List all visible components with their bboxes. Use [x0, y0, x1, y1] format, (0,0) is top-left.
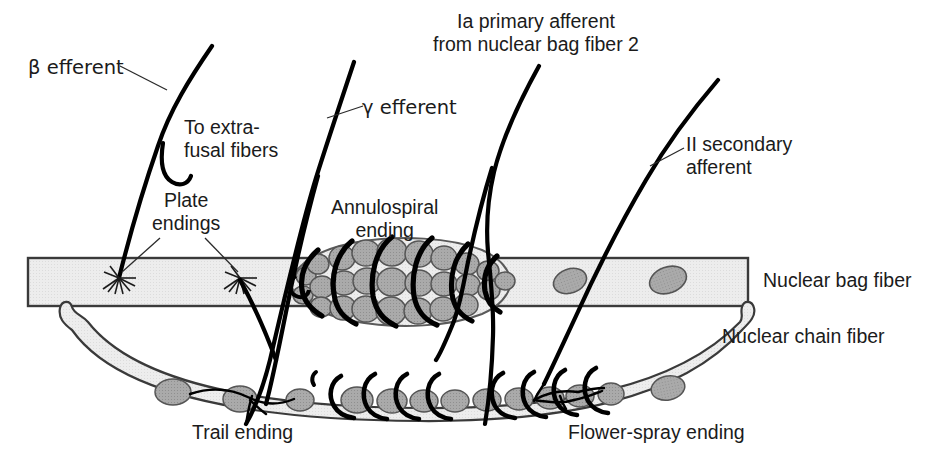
label-ia-primary-afferent: Ia primary afferent from nuclear bag fib…: [433, 10, 639, 56]
chain-coil-hook: [312, 372, 316, 385]
beta-efferent-nerve: [119, 46, 212, 278]
muscle-spindle-diagram: β efferent To extra- fusal fibers Plate …: [0, 0, 947, 461]
label-annulospiral-ending: Annulospiral ending: [331, 196, 438, 242]
diagram-canvas: [0, 0, 947, 461]
ii-secondary-afferent-leader: [650, 148, 684, 166]
annulospiral-ending-shape: [288, 237, 515, 326]
label-trail-ending: Trail ending: [192, 421, 293, 444]
ii-secondary-afferent-nerve: [544, 80, 718, 384]
label-nuclear-bag-fiber: Nuclear bag fiber: [763, 269, 912, 292]
label-ii-secondary-afferent: II secondary afferent: [686, 133, 792, 179]
label-gamma-efferent: γ efferent: [362, 96, 457, 119]
label-flower-spray-ending: Flower-spray ending: [568, 421, 745, 444]
beta-efferent-leader: [120, 66, 167, 90]
label-plate-endings: Plate endings: [152, 189, 220, 235]
label-nuclear-chain-fiber: Nuclear chain fiber: [722, 325, 885, 348]
label-to-extrafusal-fibers: To extra- fusal fibers: [184, 116, 278, 162]
label-beta-efferent: β efferent: [28, 56, 124, 79]
gamma-efferent-leader: [327, 106, 363, 118]
